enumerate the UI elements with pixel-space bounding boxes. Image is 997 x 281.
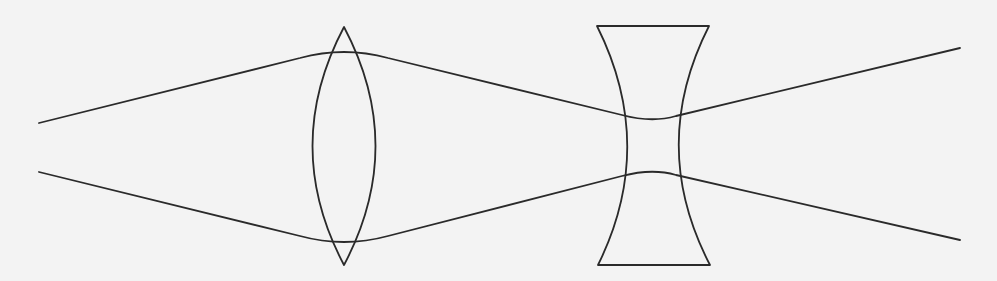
convex-lens — [313, 27, 376, 265]
concave-lens — [597, 26, 710, 265]
ray-diagram — [0, 0, 997, 281]
lower-ray — [39, 172, 960, 242]
diagram-canvas — [0, 0, 997, 281]
upper-ray — [39, 48, 960, 123]
